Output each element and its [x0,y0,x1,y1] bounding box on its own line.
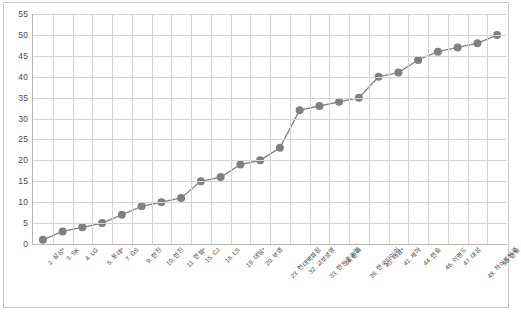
gridline-vertical [448,14,449,244]
data-point-marker [276,144,284,152]
data-point-marker [296,106,304,114]
x-axis-tick-label: 7. GS [124,246,140,262]
data-point-marker [473,39,481,47]
plot-area [32,14,507,245]
x-axis-tick-label: 44. 한솔 [422,246,443,267]
gridline-vertical [369,14,370,244]
y-axis-tick-label: 20 [18,155,28,165]
gridline-vertical [53,14,54,244]
data-point-marker [454,43,462,51]
y-axis-tick-label: 25 [18,134,28,144]
gridline-vertical [428,14,429,244]
data-point-marker [59,227,67,235]
y-axis-tick-label: 0 [23,239,28,249]
y-axis-tick-label: 15 [18,176,28,186]
data-point-marker [177,194,185,202]
gridline-vertical [468,14,469,244]
y-axis-tick-label: 50 [18,30,28,40]
gridline-vertical [290,14,291,244]
x-axis-tick-label: 20. 부영 [264,246,285,267]
gridline-vertical [231,14,232,244]
gridline-vertical [112,14,113,244]
x-axis: 1. 삼성*3. SK4. LG5. 롯데*7. GS9. 한진10. 한진11… [32,246,507,308]
y-axis-tick-label: 35 [18,93,28,103]
data-point-marker [118,211,126,219]
y-axis-tick-label: 45 [18,51,28,61]
x-axis-tick-label: 5. 롯데* [105,246,125,266]
y-axis-tick-label: 55 [18,9,28,19]
data-point-marker [315,102,323,110]
x-axis-tick-label: 16. LS [223,246,241,264]
gridline-vertical [270,14,271,244]
gridline-vertical [191,14,192,244]
gridline-vertical [211,14,212,244]
gridline-vertical [92,14,93,244]
data-point-marker [138,202,146,210]
gridline-vertical [408,14,409,244]
gridline-vertical [73,14,74,244]
gridline-vertical [310,14,311,244]
data-point-marker [39,236,47,244]
data-point-marker [335,98,343,106]
y-axis-tick-label: 10 [18,197,28,207]
gridline-vertical [349,14,350,244]
gridline-vertical [171,14,172,244]
gridline-vertical [152,14,153,244]
data-point-marker [78,223,86,231]
gridline-vertical [132,14,133,244]
data-point-marker [236,161,244,169]
x-axis-tick-label: 3. SK [64,246,80,262]
y-axis-tick-label: 30 [18,114,28,124]
x-axis-tick-label: 19. 대림* [245,246,267,268]
y-axis-tick-label: 5 [23,218,28,228]
x-axis-tick-label: 4. LG [84,246,100,262]
gridline-vertical [250,14,251,244]
gridline-vertical [487,14,488,244]
gridline-vertical [329,14,330,244]
data-point-marker [217,173,225,181]
chart-container: 0510152025303540455055 1. 삼성*3. SK4. LG5… [3,2,509,308]
x-axis-tick-label: 1. 삼성* [46,246,66,266]
data-point-marker [434,48,442,56]
data-point-marker [414,56,422,64]
x-axis-tick-label: 10. 한진 [165,246,186,267]
data-point-marker [394,69,402,77]
y-axis: 0510152025303540455055 [4,3,32,245]
gridline-vertical [389,14,390,244]
y-axis-tick-label: 40 [18,72,28,82]
x-axis-tick-label: 9. 한진 [144,246,162,264]
